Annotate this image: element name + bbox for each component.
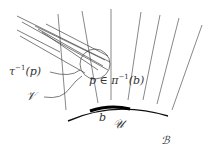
fiber-line — [143, 15, 160, 100]
fiber-lines — [58, 9, 202, 110]
leaf-line — [38, 29, 103, 66]
b-space-label: ℬ — [161, 135, 170, 146]
tau-pointer-curve — [50, 70, 80, 75]
leaf-line — [35, 26, 105, 60]
u-label: 𝒰 — [113, 118, 124, 130]
fiber-line — [157, 18, 179, 104]
leaf-line — [17, 30, 60, 52]
fiber-line — [58, 14, 66, 110]
v-pointer-curve — [44, 76, 82, 98]
fiber-line — [172, 25, 202, 110]
p-in-fiber-label: p ∈ π−1(b) — [89, 74, 144, 86]
leaf-line — [22, 22, 108, 70]
b-label: b — [99, 112, 106, 123]
leaf-line — [17, 16, 110, 62]
fiber-line — [128, 12, 141, 100]
tau-inverse-label: τ−1(p) — [9, 65, 41, 77]
v-label: 𝒱 — [26, 90, 36, 102]
